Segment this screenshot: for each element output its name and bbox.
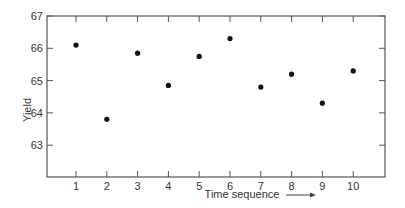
x-tick-label: 2 [104,180,110,192]
data-point [258,84,263,89]
x-tick-label: 3 [135,180,141,192]
data-point [289,72,294,77]
x-tick-label: 1 [73,180,79,192]
y-tick-label: 66 [31,42,43,54]
arrow-right-icon [286,193,316,198]
data-point [227,36,232,41]
x-tick-label: 4 [165,180,171,192]
data-point [351,68,356,73]
data-point [104,117,109,122]
y-axis-title: Yield [21,98,33,122]
y-axis-ticks: 6364656667 [31,10,385,151]
data-point [166,83,171,88]
data-point [320,101,325,106]
x-tick-label: 10 [347,180,359,192]
data-point [135,51,140,56]
data-point [197,54,202,59]
x-tick-label: 5 [196,180,202,192]
data-points [73,36,355,122]
data-point [73,42,78,47]
x-axis-ticks: 12345678910 [73,16,359,192]
y-tick-label: 63 [31,139,43,151]
plot-frame [47,16,385,177]
y-tick-label: 67 [31,10,43,22]
scatter-chart: 12345678910 6364656667 Yield Time sequen… [0,0,405,208]
x-tick-label: 8 [289,180,295,192]
x-tick-label: 9 [319,180,325,192]
y-tick-label: 65 [31,75,43,87]
x-axis-title: Time sequence [205,188,280,200]
